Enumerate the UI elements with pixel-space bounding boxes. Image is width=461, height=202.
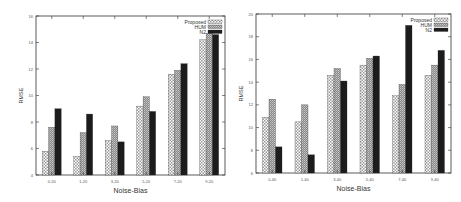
x-tick-label: 1-20 [79, 179, 88, 184]
legend-swatch-proposed [208, 20, 222, 24]
figure: 468101214160-201-203-205-207-209-20Noise… [0, 0, 461, 202]
x-tick-label: 3-40 [333, 177, 342, 182]
x-tick-label: 5-20 [142, 179, 151, 184]
bar-proposed-5-20 [137, 106, 143, 175]
bar-n2-5-40 [373, 56, 380, 173]
x-tick-label: 7-20 [174, 179, 183, 184]
bar-proposed-3-40 [328, 75, 335, 173]
bar-hum-1-20 [80, 133, 86, 175]
bar-n2-9-20 [212, 35, 218, 175]
bar-proposed-7-20 [168, 74, 174, 175]
bar-hum-1-40 [302, 105, 309, 173]
legend-label-n2: N2 [200, 29, 207, 35]
bar-n2-3-20 [118, 142, 124, 175]
bar-n2-5-20 [149, 111, 155, 175]
plot-frame [256, 14, 451, 173]
chart-left: 468101214160-201-203-205-207-209-20Noise… [18, 14, 225, 195]
bar-hum-7-40 [399, 84, 406, 173]
y-tick-label: 10 [249, 125, 254, 130]
y-tick-label: 8 [31, 120, 34, 125]
bar-n2-9-40 [438, 50, 445, 173]
bar-hum-5-40 [367, 58, 374, 173]
x-tick-label: 9-40 [431, 177, 440, 182]
y-tick-label: 6 [31, 146, 34, 151]
legend-swatch-hum [434, 23, 448, 27]
y-tick-label: 12 [249, 102, 254, 107]
bar-proposed-9-20 [200, 40, 206, 175]
y-tick-label: 8 [251, 148, 254, 153]
bar-hum-3-40 [334, 69, 341, 173]
bar-n2-0-20 [55, 109, 61, 175]
y-tick-label: 20 [249, 12, 254, 17]
bar-hum-0-20 [49, 127, 55, 175]
x-tick-label: 9-20 [205, 179, 214, 184]
x-tick-label: 3-20 [111, 179, 120, 184]
legend-label-n2: N2 [426, 27, 433, 33]
x-tick-label: 1-40 [301, 177, 310, 182]
bar-proposed-3-20 [105, 141, 111, 175]
y-tick-label: 6 [251, 171, 254, 176]
legend: ProposedHUMN2 [185, 19, 222, 35]
bar-proposed-5-40 [360, 65, 367, 173]
bar-proposed-7-40 [393, 96, 400, 173]
legend: ProposedHUMN2 [411, 17, 448, 33]
legend-swatch-n2 [208, 30, 222, 34]
y-tick-label: 16 [249, 57, 254, 62]
y-tick-label: 18 [249, 34, 254, 39]
legend-swatch-proposed [434, 18, 448, 22]
bar-hum-5-20 [143, 97, 149, 175]
y-tick-label: 4 [31, 173, 34, 178]
y-tick-label: 10 [29, 93, 34, 98]
bar-proposed-1-20 [74, 156, 80, 175]
x-tick-label: 0-20 [48, 179, 57, 184]
bar-proposed-0-40 [263, 117, 270, 173]
y-tick-label: 14 [249, 80, 254, 85]
plot-frame [36, 16, 225, 175]
bar-hum-0-40 [269, 99, 276, 173]
bar-n2-0-40 [276, 147, 283, 173]
x-tick-label: 5-40 [366, 177, 375, 182]
bar-hum-9-20 [206, 33, 212, 175]
legend-swatch-n2 [434, 28, 448, 32]
y-tick-label: 14 [29, 40, 34, 45]
bar-hum-7-20 [175, 70, 181, 175]
bar-hum-9-40 [432, 65, 439, 173]
x-tick-label: 7-40 [398, 177, 407, 182]
x-axis-label: Noise-Bias [337, 185, 371, 192]
y-axis-label: RMSE [238, 85, 244, 101]
bar-n2-1-20 [86, 114, 92, 175]
x-tick-label: 0-40 [268, 177, 277, 182]
bar-hum-3-20 [112, 126, 118, 175]
x-axis-label: Noise-Bias [114, 187, 148, 194]
y-tick-label: 12 [29, 67, 34, 72]
bar-proposed-9-40 [425, 75, 432, 173]
y-axis-label: RMSE [18, 87, 24, 103]
bar-n2-7-20 [181, 64, 187, 175]
bar-n2-7-40 [406, 25, 413, 173]
legend-swatch-hum [208, 25, 222, 29]
bar-proposed-0-20 [42, 151, 48, 175]
chart-figure: 468101214160-201-203-205-207-209-20Noise… [0, 0, 461, 202]
bar-n2-1-40 [308, 155, 315, 173]
bar-proposed-1-40 [295, 122, 302, 173]
bar-n2-3-40 [341, 81, 348, 173]
y-tick-label: 16 [29, 14, 34, 19]
chart-right: 681012141618200-401-403-405-407-409-40No… [238, 12, 451, 193]
